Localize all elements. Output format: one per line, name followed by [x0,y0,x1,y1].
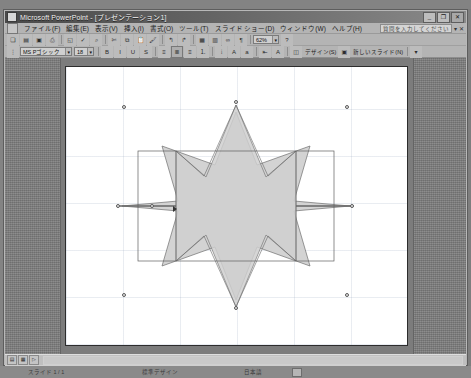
document-icon[interactable] [7,23,18,34]
work-area [5,58,466,354]
new-slide-icon[interactable]: ▣ [338,46,350,58]
powerpoint-icon [7,12,17,22]
window-title: Microsoft PowerPoint - [プレゼンテーション1] [20,12,167,22]
chevron-down-icon[interactable]: ▾ [65,48,71,55]
research-icon[interactable]: ⌕ [90,34,102,46]
save-icon[interactable]: ▣ [33,34,45,46]
toolbar-separator [61,35,62,44]
zoom-combo[interactable]: 62% ▾ [253,35,279,44]
toolbar-separator [250,35,251,44]
menu-item-edit[interactable]: 編集(E) [63,23,92,33]
toolbar-handle-icon[interactable]: ⋮ [7,46,19,58]
shadow-button[interactable]: S [140,46,152,58]
menu-item-slideshow[interactable]: スライド ショー(D) [212,23,278,33]
toolbar-separator [162,35,163,44]
format-painter-icon[interactable]: 🖌 [147,34,159,46]
numbering-icon[interactable]: ⒈ [197,46,209,58]
font-size-value: 18 [77,49,83,55]
underline-button[interactable]: U [127,46,139,58]
undo-icon[interactable]: ↰ [165,34,177,46]
align-right-icon[interactable]: ≡ [184,46,196,58]
slide-editing-area[interactable] [61,62,413,350]
restore-button[interactable]: ❐ [437,12,450,23]
selection-handle-ne[interactable] [345,105,349,109]
new-icon[interactable]: ❏ [7,34,19,46]
menu-item-view[interactable]: 表示(V) [92,23,121,33]
design-template[interactable]: 標準デザイン [142,368,178,376]
powerpoint-window: Microsoft PowerPoint - [プレゼンテーション1] _ ❐ … [3,9,468,366]
menu-bar: ファイル(F) 編集(E) 表示(V) 挿入(I) 書式(O) ツール(T) ス… [5,23,466,34]
title-bar[interactable]: Microsoft PowerPoint - [プレゼンテーション1] _ ❐ … [5,11,466,23]
font-name-combo[interactable]: MS Pゴシック ▾ [20,47,72,56]
selection-handle-se[interactable] [345,293,349,297]
toolbar-separator [212,47,213,56]
print-preview-icon[interactable]: ◱ [64,34,76,46]
standard-toolbar: ❏ ▤ ▣ ⎙ ◱ ✓ ⌕ ✄ ⧉ 📋 🖌 ↰ ↱ ▦ ▥ ∞ ¶ 62% ▾ [5,34,466,46]
align-center-icon[interactable]: ≣ [171,46,183,58]
toolbar-separator [98,47,99,56]
chevron-down-icon[interactable]: ▾ [272,36,278,43]
ask-a-question-input[interactable]: 質問を入力してください [380,24,452,33]
menu-item-tools[interactable]: ツール(T) [176,23,211,33]
insert-table-icon[interactable]: ▦ [196,34,208,46]
menu-item-file[interactable]: ファイル(F) [21,23,63,33]
print-icon[interactable]: ⎙ [46,34,58,46]
chevron-down-icon[interactable]: ▾ [87,48,93,55]
bold-button[interactable]: B [101,46,113,58]
menu-item-window[interactable]: ウィンドウ(W) [277,23,328,33]
selection-handle-n[interactable] [234,100,238,104]
increase-font-icon[interactable]: A [228,46,240,58]
status-bar: スライド 1 / 1 標準デザイン 日本語 [0,366,471,378]
inner-handle-w[interactable] [150,204,154,208]
paste-icon[interactable]: 📋 [134,34,146,46]
toolbar-separator [193,35,194,44]
redo-icon[interactable]: ↱ [178,34,190,46]
slide-show-view-icon[interactable]: ▷ [29,355,39,365]
task-pane[interactable] [413,58,466,354]
font-size-combo[interactable]: 18 ▾ [74,47,94,56]
selection-handle-s[interactable] [234,306,238,310]
selection-handle-nw[interactable] [122,105,126,109]
move-cursor [173,206,177,212]
hyperlink-icon[interactable]: ∞ [222,34,234,46]
normal-view-icon[interactable]: ▤ [7,355,17,365]
close-icon[interactable]: ✕ [459,25,464,32]
design-icon[interactable]: ◫ [290,46,302,58]
italic-button[interactable]: I [114,46,126,58]
font-color-icon[interactable]: A [272,46,284,58]
ask-a-question-box: 質問を入力してください ▾ ✕ [380,24,466,33]
selection-handle-sw[interactable] [122,293,126,297]
spelling-icon[interactable]: ✓ [77,34,89,46]
slide-sorter-view-icon[interactable]: ▦ [18,355,28,365]
font-name-value: MS Pゴシック [23,48,60,56]
window-controls: _ ❐ ✕ [423,12,464,23]
zoom-value: 62% [256,37,267,43]
toolbar-options-icon[interactable]: ▾ [410,46,422,58]
slide-indicator: スライド 1 / 1 [28,368,64,376]
copy-icon[interactable]: ⧉ [121,34,133,46]
new-slide-button[interactable]: 新しいスライド(N) [351,48,405,56]
close-button[interactable]: ✕ [451,12,464,23]
design-button[interactable]: デザイン(S) [303,48,338,56]
menu-item-help[interactable]: ヘルプ(H) [329,23,365,33]
cut-icon[interactable]: ✄ [108,34,120,46]
bullets-icon[interactable]: ⦙ [215,46,227,58]
menu-item-insert[interactable]: 挿入(I) [121,23,147,33]
menu-item-format[interactable]: 書式(O) [147,23,176,33]
align-left-icon[interactable]: ≡ [158,46,170,58]
show-formatting-icon[interactable]: ¶ [235,34,247,46]
overtype-indicator [292,368,302,377]
chevron-down-icon[interactable]: ▾ [454,25,457,32]
slides-outline-pane[interactable] [5,58,61,354]
slide-canvas[interactable] [65,66,408,346]
minimize-button[interactable]: _ [423,12,436,23]
selection-handle-w[interactable] [116,204,120,208]
selection-handle-e[interactable] [350,204,354,208]
language-indicator[interactable]: 日本語 [244,368,262,376]
decrease-indent-icon[interactable]: ⇤ [259,46,271,58]
help-icon[interactable]: ? [281,34,293,46]
decrease-font-icon[interactable]: a [241,46,253,58]
insert-chart-icon[interactable]: ▥ [209,34,221,46]
screen: Microsoft PowerPoint - [プレゼンテーション1] _ ❐ … [0,0,471,378]
open-icon[interactable]: ▤ [20,34,32,46]
